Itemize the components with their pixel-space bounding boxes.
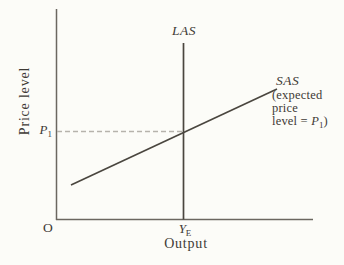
sas-expected-price-note: (expected price level = P1) — [272, 89, 328, 131]
sas-note-line3: level = P1) — [272, 115, 328, 132]
sas-curve-label: SAS — [276, 73, 299, 89]
sas-note-close-paren: ) — [324, 114, 328, 128]
p1-subscript: 1 — [48, 129, 53, 139]
ye-symbol: Y — [179, 221, 186, 236]
sas-note-line1: (expected — [272, 89, 328, 102]
p1-price-tick-label: P1 — [30, 122, 52, 139]
x-axis-title: Output — [154, 236, 218, 252]
aggregate-supply-diagram: LAS SAS (expected price level = P1) P1 O… — [0, 0, 344, 265]
las-curve-label: LAS — [165, 23, 203, 39]
origin-label: O — [43, 220, 53, 236]
sas-note-line3-text: level = — [272, 114, 311, 128]
sas-line — [71, 89, 277, 185]
y-axis-title: Price level — [17, 55, 33, 147]
p1-symbol: P — [40, 122, 48, 137]
sas-note-p-symbol: P — [311, 114, 319, 128]
